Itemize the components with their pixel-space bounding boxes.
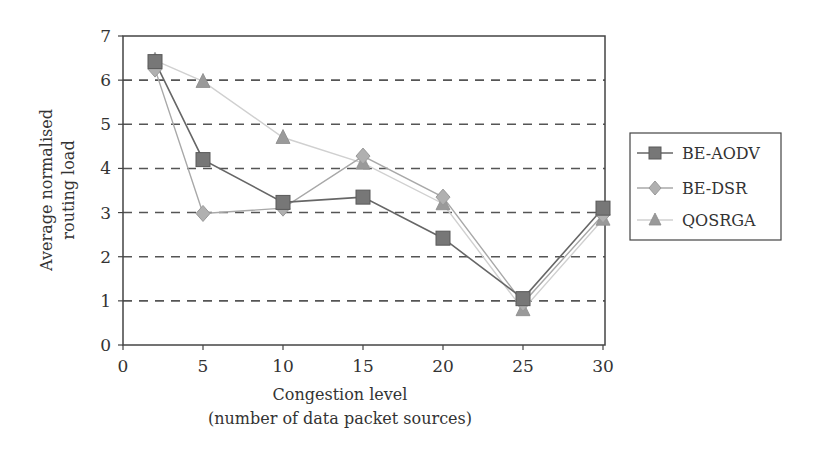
- x-axis-title: Congestion level: [273, 385, 408, 404]
- legend: BE-AODVBE-DSRQOSRGA: [630, 133, 781, 240]
- line-chart: 01234567 051015202530 Congestion level (…: [0, 0, 820, 458]
- square-marker: [436, 231, 450, 245]
- x-tick-label: 25: [512, 356, 534, 376]
- x-tick-label: 15: [352, 356, 374, 376]
- y-tick-label: 6: [100, 70, 111, 90]
- x-tick-label: 20: [432, 356, 454, 376]
- y-axis-ticks: 01234567: [100, 26, 123, 355]
- square-marker: [276, 195, 290, 209]
- x-tick-label: 5: [198, 356, 209, 376]
- series-line-qosrga: [155, 60, 603, 309]
- square-marker: [196, 153, 210, 167]
- x-tick-label: 10: [272, 356, 294, 376]
- legend-label: QOSRGA: [682, 211, 756, 230]
- square-marker: [516, 292, 530, 306]
- x-tick-label: 30: [592, 356, 614, 376]
- y-tick-label: 5: [100, 114, 111, 134]
- square-marker: [649, 147, 661, 159]
- square-marker: [596, 201, 610, 215]
- series-line-be-aodv: [155, 62, 603, 299]
- y-tick-label: 2: [100, 247, 111, 267]
- y-tick-label: 1: [100, 291, 111, 311]
- square-marker: [148, 55, 162, 69]
- y-axis-title-line2: routing load: [59, 140, 78, 239]
- triangle-marker: [276, 130, 290, 144]
- data-series: [148, 52, 610, 315]
- y-axis-title-line1: Average normalised: [37, 109, 56, 272]
- y-tick-label: 3: [100, 203, 111, 223]
- series-line-be-dsr: [155, 69, 603, 303]
- square-marker: [356, 190, 370, 204]
- diamond-marker: [196, 205, 210, 221]
- y-tick-label: 4: [100, 158, 111, 178]
- x-axis-ticks: 051015202530: [118, 345, 614, 376]
- x-tick-label: 0: [118, 356, 129, 376]
- legend-label: BE-AODV: [682, 144, 760, 163]
- legend-label: BE-DSR: [682, 179, 748, 198]
- x-axis-subtitle: (number of data packet sources): [208, 409, 472, 428]
- y-tick-label: 7: [100, 26, 111, 46]
- y-tick-label: 0: [100, 335, 111, 355]
